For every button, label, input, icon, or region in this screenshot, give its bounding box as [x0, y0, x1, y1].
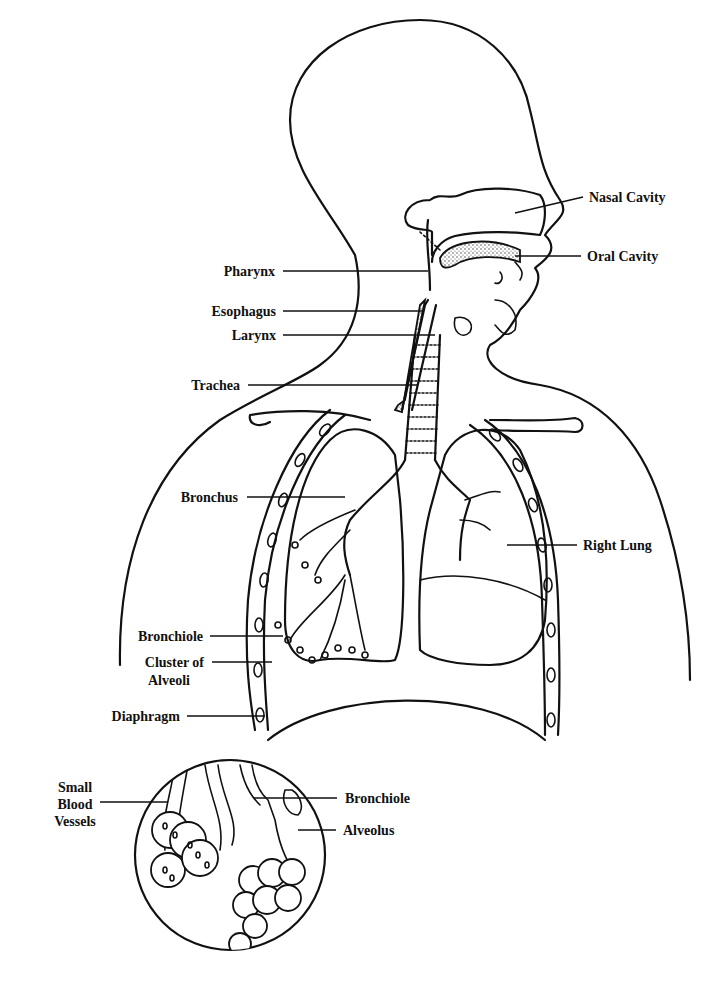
label-bronchiole: Bronchiole	[138, 629, 203, 644]
label-oral-cavity: Oral Cavity	[587, 249, 658, 264]
label-right-lung: Right Lung	[583, 538, 652, 553]
label-trachea: Trachea	[191, 378, 240, 393]
label-small-blood-vessels-line1: Small	[58, 780, 92, 795]
label-small-blood-vessels-line3: Vessels	[54, 814, 96, 829]
label-larynx: Larynx	[232, 328, 276, 343]
leader-lines	[100, 197, 583, 830]
label-esophagus: Esophagus	[211, 304, 276, 319]
label-cluster-of-alveoli-line2: Alveoli	[148, 673, 190, 688]
label-bronchus: Bronchus	[181, 490, 239, 505]
label-inset-bronchiole: Bronchiole	[345, 791, 410, 806]
bronchi	[275, 460, 500, 663]
respiratory-diagram: Nasal Cavity Oral Cavity Pharynx Esophag…	[0, 0, 718, 1001]
label-diaphragm: Diaphragm	[112, 709, 181, 724]
label-cluster-of-alveoli-line1: Cluster of	[145, 655, 205, 670]
trachea-tube	[405, 335, 440, 460]
label-pharynx: Pharynx	[224, 264, 275, 279]
label-alveolus: Alveolus	[343, 823, 395, 838]
label-nasal-cavity: Nasal Cavity	[589, 190, 666, 205]
inset-alveoli	[135, 760, 325, 955]
body-outline	[120, 20, 690, 680]
diaphragm-line	[268, 701, 545, 740]
esophagus-tube	[395, 300, 436, 412]
label-small-blood-vessels-line2: Blood	[57, 797, 92, 812]
